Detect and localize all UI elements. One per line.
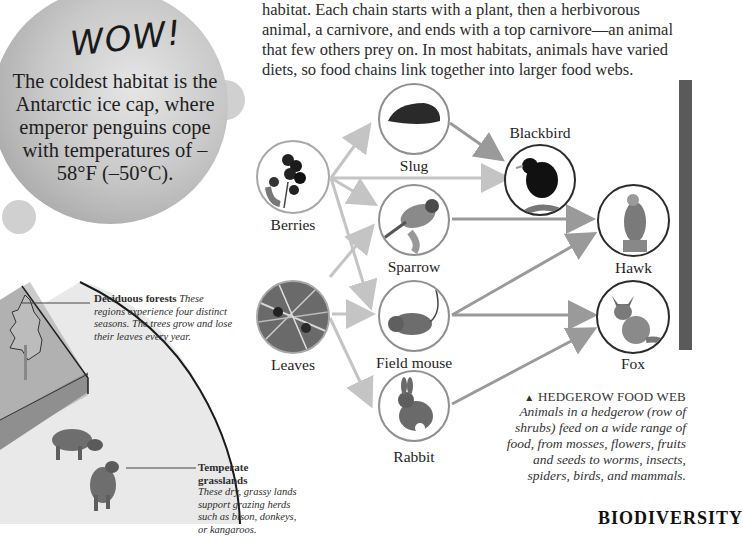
caption-heading: ▲ HEDGEROW FOOD WEB <box>510 389 686 405</box>
leaves-icon <box>258 282 328 352</box>
annotation-text: These dry, grassy lands support grazing … <box>198 486 297 535</box>
triangle-marker-icon: ▲ <box>524 392 534 403</box>
mouse-icon <box>380 282 448 350</box>
blackbird-icon <box>506 146 574 214</box>
label-slug: Slug <box>378 157 450 175</box>
label-rabbit: Rabbit <box>378 448 450 466</box>
berries-icon <box>258 142 328 212</box>
section-heading: BIODIVERSITY <box>598 508 743 529</box>
label-blackbird: Blackbird <box>496 124 584 142</box>
rabbit-icon <box>380 372 448 440</box>
label-fox: Fox <box>596 355 670 373</box>
caption-body: Animals in a hedgerow (row of shrubs) fe… <box>500 404 686 484</box>
label-leaves: Leaves <box>256 356 330 374</box>
label-sparrow: Sparrow <box>372 258 456 276</box>
chapter-tab-bar <box>679 80 692 350</box>
node-berries <box>256 140 330 214</box>
label-hawk: Hawk <box>597 259 670 277</box>
annotation-title: Temperate grasslands <box>198 461 298 486</box>
hawk-icon <box>599 186 667 254</box>
node-sparrow <box>378 184 450 256</box>
node-blackbird <box>504 144 576 216</box>
slug-icon <box>380 85 448 153</box>
annotation-temperate-grasslands: Temperate grasslands These dry, grassy l… <box>198 461 298 536</box>
node-rabbit <box>378 370 450 442</box>
node-fox <box>596 280 670 354</box>
node-field-mouse <box>378 280 450 352</box>
label-berries: Berries <box>256 216 330 234</box>
annotation-title: Deciduous forests <box>94 292 177 304</box>
annotation-deciduous-forests: Deciduous forests These regions experien… <box>94 292 234 343</box>
caption-heading-text: HEDGEROW FOOD WEB <box>538 389 686 404</box>
node-hawk <box>597 184 670 257</box>
fox-icon <box>598 282 668 352</box>
node-slug <box>378 83 450 155</box>
node-leaves <box>256 280 330 354</box>
sparrow-icon <box>380 186 448 254</box>
